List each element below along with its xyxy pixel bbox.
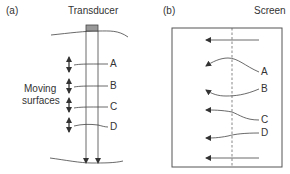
- transducer-title: Transducer: [68, 6, 118, 16]
- echo-label-c: C: [261, 115, 268, 125]
- surface-label-c: C: [110, 102, 117, 112]
- screen-title: Screen: [254, 6, 286, 16]
- panel-a-label: (a): [6, 6, 18, 16]
- screen-frame: [172, 28, 282, 167]
- surface-lines: [74, 64, 108, 127]
- panel-a-graphics: [50, 25, 128, 163]
- echo-label-b: B: [261, 84, 268, 94]
- surface-label-a: A: [110, 59, 117, 69]
- echo-label-d: D: [261, 128, 268, 138]
- bottom-surface-line: [50, 158, 123, 163]
- surface-label-d: D: [110, 122, 117, 132]
- top-surface-line: [51, 31, 128, 37]
- moving-label-line1: Moving: [24, 84, 56, 94]
- moving-label-line2: surfaces: [22, 96, 60, 106]
- transducer-head-icon: [86, 25, 98, 31]
- echo-label-a: A: [261, 67, 268, 77]
- panel-b-graphics: [172, 28, 282, 167]
- panel-b-label: (b): [163, 6, 175, 16]
- surface-label-b: B: [110, 81, 117, 91]
